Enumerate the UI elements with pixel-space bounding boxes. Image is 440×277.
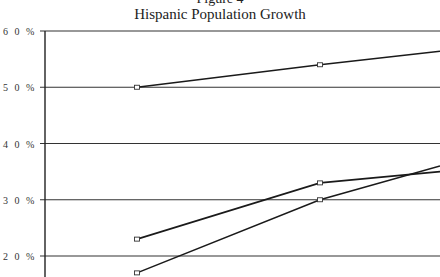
y-tick-labels: 2 0 %3 0 %4 0 %5 0 %6 0 %	[3, 26, 36, 262]
data-point-marker	[135, 237, 140, 241]
gridlines	[40, 31, 440, 256]
data-point-marker	[318, 198, 323, 202]
y-tick-label: 3 0 %	[3, 195, 36, 206]
y-tick-label: 2 0 %	[3, 251, 36, 262]
data-point-marker	[318, 181, 323, 185]
data-point-marker	[135, 271, 140, 275]
series-lines	[135, 51, 440, 275]
data-point-marker	[318, 63, 323, 67]
series-line	[137, 172, 440, 240]
y-tick-label: 5 0 %	[3, 82, 36, 93]
series-2	[135, 172, 440, 242]
data-point-marker	[135, 85, 140, 89]
series-line	[137, 166, 440, 273]
series-1	[135, 51, 440, 89]
series-3	[135, 166, 440, 275]
line-chart: 2 0 %3 0 %4 0 %5 0 %6 0 %	[0, 0, 440, 277]
y-tick-label: 6 0 %	[3, 26, 36, 37]
y-tick-label: 4 0 %	[3, 139, 36, 150]
series-line	[137, 51, 440, 87]
